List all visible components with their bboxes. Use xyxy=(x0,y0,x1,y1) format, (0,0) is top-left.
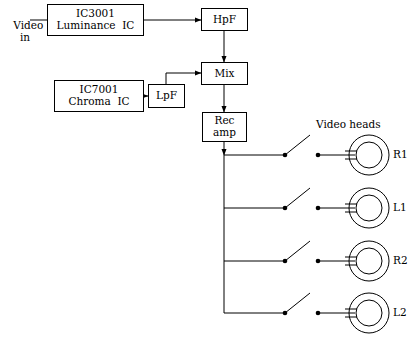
head-label-r2: R2 xyxy=(393,255,408,267)
video-heads-label: Video heads xyxy=(316,119,381,131)
block-hpf-label: HpF xyxy=(213,14,236,26)
block-diagram: Video in Video heads IC3001 Luminance IC… xyxy=(0,0,413,338)
video-in-label-line2: in xyxy=(20,31,30,43)
switch-pivot-dot-l1[interactable] xyxy=(283,206,288,211)
wiring-layer xyxy=(0,0,413,338)
block-rec-amp-line2: amp xyxy=(213,127,236,139)
switch-blade-r2 xyxy=(285,241,310,261)
block-lpf-label: LpF xyxy=(156,90,177,102)
switch-contact-dot-l1[interactable] xyxy=(316,206,321,211)
switch-pivot-dot-r2[interactable] xyxy=(283,259,288,264)
head-inner-ring-l1 xyxy=(356,195,382,221)
switch-contact-dot-l2[interactable] xyxy=(316,311,321,316)
switch-blade-l1 xyxy=(285,188,310,208)
block-mix[interactable]: Mix xyxy=(201,62,248,85)
block-hpf[interactable]: HpF xyxy=(201,8,248,31)
switch-pivot-dot-r1[interactable] xyxy=(283,153,288,158)
switch-pivot-dot-l2[interactable] xyxy=(283,311,288,316)
head-label-l1: L1 xyxy=(393,202,407,214)
head-inner-ring-l2 xyxy=(356,300,382,326)
head-inner-ring-r1 xyxy=(356,142,382,168)
block-chroma-ic-line2: Chroma IC xyxy=(68,96,129,108)
block-luminance-ic[interactable]: IC3001 Luminance IC xyxy=(47,4,144,36)
switch-contact-dot-r2[interactable] xyxy=(316,259,321,264)
block-luminance-ic-line2: Luminance IC xyxy=(57,20,135,32)
head-inner-ring-r2 xyxy=(356,248,382,274)
block-mix-label: Mix xyxy=(214,68,234,80)
block-rec-amp[interactable]: Rec amp xyxy=(202,112,247,142)
switch-contact-dot-r1[interactable] xyxy=(316,153,321,158)
wire-lpf-to-mix xyxy=(166,73,201,84)
block-chroma-ic[interactable]: IC7001 Chroma IC xyxy=(54,80,144,112)
video-in-label: Video in xyxy=(0,8,30,55)
switch-blade-l2 xyxy=(285,293,310,313)
switch-blade-r1 xyxy=(285,135,310,155)
head-label-l2: L2 xyxy=(393,307,407,319)
video-in-label-line1: Video xyxy=(13,19,43,31)
block-lpf[interactable]: LpF xyxy=(148,84,185,108)
head-label-r1: R1 xyxy=(393,149,408,161)
